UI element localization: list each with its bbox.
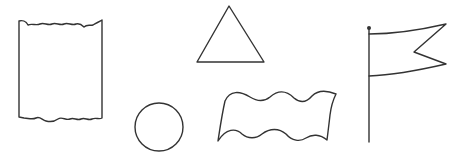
shapes-canvas: Rectangle with wavy top and bottom edges… [0,0,466,159]
shapes-diagram: Shape outlines Rectangle with wavy top a… [0,0,466,159]
wavy-banner-shape: Wavy banner [218,91,336,141]
pennant-flag-shape: Swallowtail flag on pole [367,24,446,142]
circle-shape: Circle [135,103,183,151]
triangle-shape: Triangle [197,6,264,62]
scroll-rectangle-shape: Rectangle with wavy top and bottom edges [19,20,102,122]
